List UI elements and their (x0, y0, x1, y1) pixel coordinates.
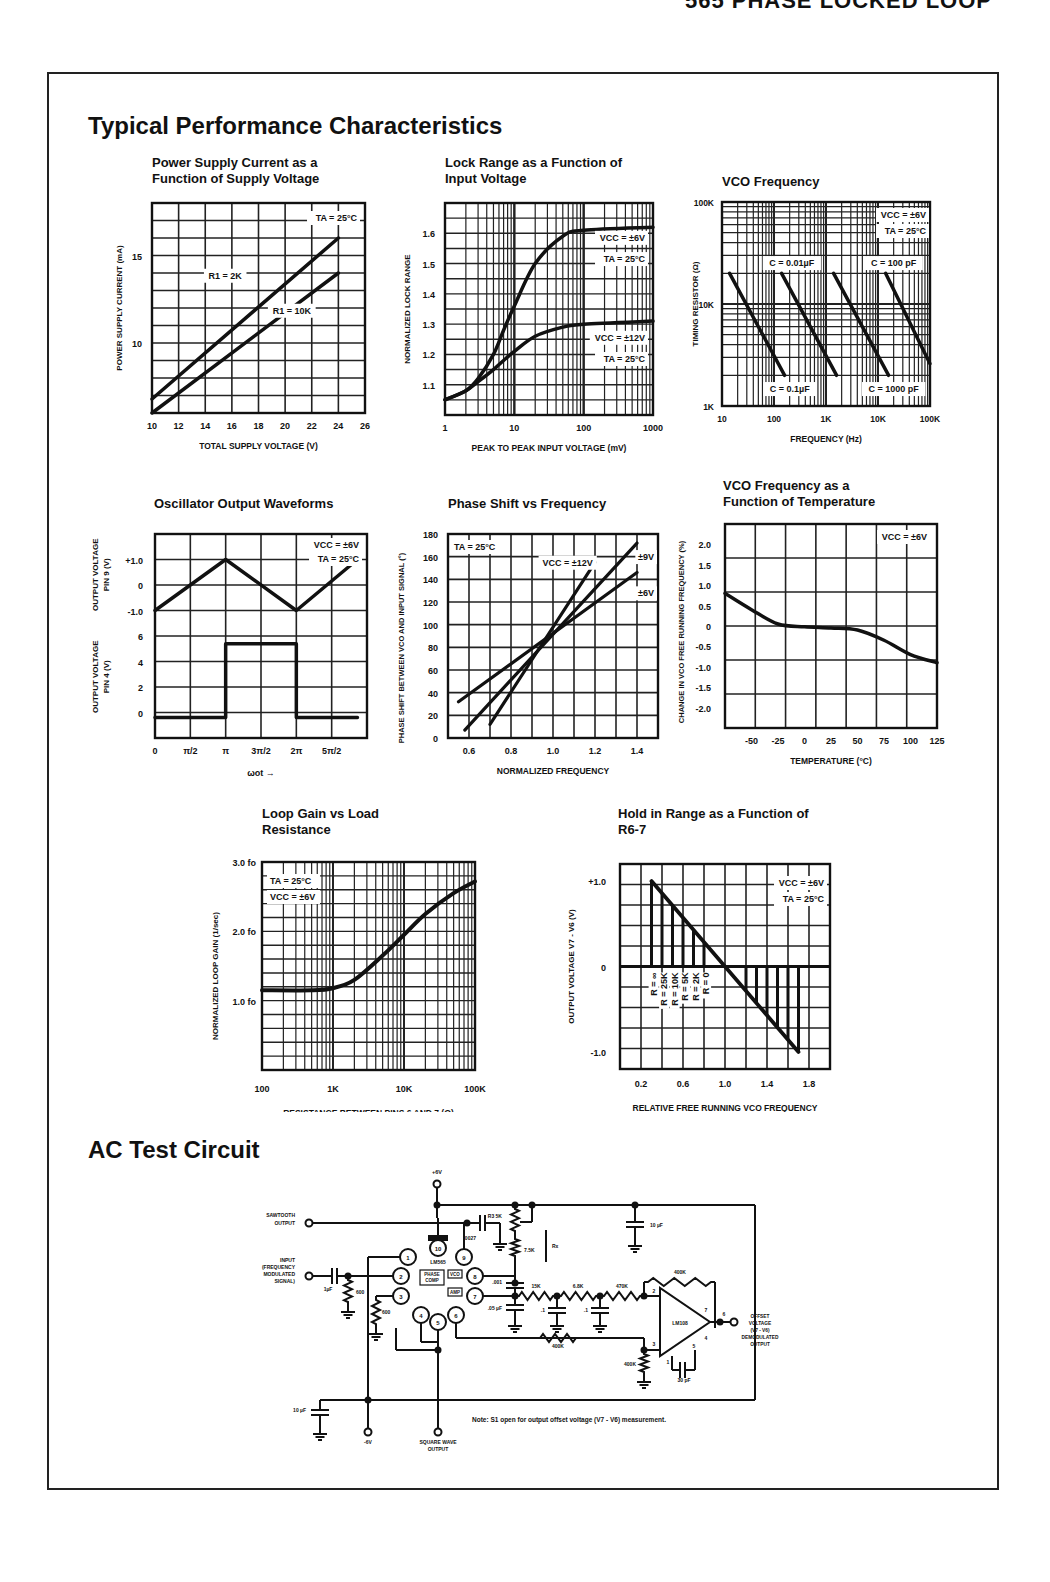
svg-text:+1.0: +1.0 (125, 556, 143, 566)
svg-text:0: 0 (138, 709, 143, 719)
svg-text:C = 1000 pF: C = 1000 pF (869, 384, 920, 394)
svg-text:6: 6 (138, 632, 143, 642)
svg-text:125: 125 (929, 736, 944, 746)
svg-text:10K: 10K (698, 300, 714, 310)
svg-text:75: 75 (879, 736, 889, 746)
svg-text:RESISTANCE BETWEEN PINS 6 AND: RESISTANCE BETWEEN PINS 6 AND 7 (Ω) (283, 1108, 454, 1112)
svg-text:10 µF: 10 µF (650, 1222, 663, 1228)
svg-text:7.5K: 7.5K (524, 1247, 535, 1253)
svg-text:(V7 - V6): (V7 - V6) (750, 1328, 770, 1333)
svg-text:NORMALIZED LOCK RANGE: NORMALIZED LOCK RANGE (403, 254, 412, 364)
svg-text:100: 100 (254, 1084, 269, 1094)
svg-text:2: 2 (653, 1288, 656, 1294)
svg-text:470K: 470K (616, 1283, 628, 1289)
svg-text:10K: 10K (870, 414, 886, 424)
svg-text:24: 24 (333, 421, 343, 431)
svg-text:15: 15 (132, 252, 142, 262)
svg-text:DEMODULATED: DEMODULATED (742, 1335, 779, 1340)
chart-title: VCO Frequency (722, 174, 820, 190)
svg-text:10 µF: 10 µF (293, 1407, 306, 1413)
chart-hold-in-range: Hold in Range as a Function of R6-7 0.20… (550, 802, 850, 1112)
svg-text:π: π (222, 746, 229, 756)
svg-text:TOTAL SUPPLY VOLTAGE (V): TOTAL SUPPLY VOLTAGE (V) (199, 441, 318, 451)
svg-text:1.0 fo: 1.0 fo (232, 997, 256, 1007)
svg-text:TA = 25°C: TA = 25°C (604, 354, 646, 364)
svg-text:14: 14 (200, 421, 210, 431)
svg-text:25: 25 (826, 736, 836, 746)
svg-text:6: 6 (723, 1311, 726, 1317)
svg-text:0.8: 0.8 (505, 746, 518, 756)
svg-text:TA = 25°C: TA = 25°C (270, 876, 312, 886)
chart-title: Oscillator Output Waveforms (154, 496, 333, 512)
svg-text:7: 7 (705, 1307, 708, 1313)
svg-text:1K: 1K (327, 1084, 339, 1094)
section-title-ac-test-circuit: AC Test Circuit (88, 1136, 260, 1164)
svg-text:R = 5K: R = 5K (680, 972, 690, 1001)
svg-text:10: 10 (717, 414, 727, 424)
svg-text:1.6: 1.6 (422, 229, 435, 239)
svg-text:20: 20 (280, 421, 290, 431)
svg-text:C = 0.1µF: C = 0.1µF (770, 384, 810, 394)
svg-text:18: 18 (253, 421, 263, 431)
svg-text:1: 1 (442, 423, 447, 433)
svg-text:VCC = ±12V: VCC = ±12V (595, 333, 645, 343)
svg-text:0: 0 (433, 734, 438, 744)
svg-text:1.3: 1.3 (422, 320, 435, 330)
svg-text:2.0: 2.0 (698, 540, 711, 550)
svg-text:+6V: +6V (432, 1169, 442, 1175)
svg-text:TA = 25°C: TA = 25°C (316, 213, 358, 223)
svg-text:60: 60 (428, 666, 438, 676)
svg-text:6.8K: 6.8K (573, 1283, 584, 1289)
chart-title: Lock Range as a Function of Input Voltag… (445, 155, 635, 187)
svg-text:160: 160 (423, 553, 438, 563)
svg-text:TA = 25°C: TA = 25°C (783, 894, 825, 904)
section-title-performance: Typical Performance Characteristics (88, 112, 502, 140)
svg-text:0: 0 (152, 746, 157, 756)
svg-text:3π/2: 3π/2 (251, 746, 270, 756)
svg-text:100: 100 (423, 621, 438, 631)
svg-text:R3 5K: R3 5K (488, 1213, 503, 1219)
svg-text:140: 140 (423, 575, 438, 585)
chart-title: Phase Shift vs Frequency (448, 496, 606, 512)
svg-text:100: 100 (576, 423, 591, 433)
chart-title: VCO Frequency as a Function of Temperatu… (723, 478, 903, 510)
svg-text:0.6: 0.6 (463, 746, 476, 756)
svg-text:±6V: ±6V (638, 588, 654, 598)
svg-text:C = 100 pF: C = 100 pF (871, 258, 917, 268)
svg-text:C = 0.01µF: C = 0.01µF (769, 258, 814, 268)
svg-text:10K: 10K (396, 1084, 413, 1094)
svg-text:1K: 1K (821, 414, 833, 424)
svg-text:-50: -50 (745, 736, 758, 746)
svg-text:OFFSET: OFFSET (751, 1314, 770, 1319)
ac-test-circuit-diagram: +6V10 µFR3 5K7.5KRxSAWTOOTHOUTPUT.002712… (240, 1160, 800, 1470)
svg-text:-1.0: -1.0 (590, 1048, 606, 1058)
chart-vco-temperature: VCO Frequency as a Function of Temperatu… (670, 472, 960, 782)
svg-text:12: 12 (174, 421, 184, 431)
svg-text:30 pF: 30 pF (677, 1377, 690, 1383)
svg-text:0.5: 0.5 (698, 602, 711, 612)
svg-text:1: 1 (667, 1359, 670, 1365)
svg-text:2: 2 (138, 683, 143, 693)
svg-text:VCC = ±12V: VCC = ±12V (543, 558, 593, 568)
svg-text:Rx: Rx (552, 1243, 559, 1249)
svg-text:0.6: 0.6 (677, 1079, 690, 1089)
svg-text:-0.5: -0.5 (695, 642, 711, 652)
svg-text:(FREQUENCY: (FREQUENCY (262, 1264, 296, 1270)
svg-text:R1 = 10K: R1 = 10K (273, 306, 312, 316)
svg-text:TA = 25°C: TA = 25°C (885, 226, 927, 236)
svg-text:10: 10 (132, 339, 142, 349)
svg-text:AMP: AMP (450, 1290, 460, 1295)
svg-text:TEMPERATURE (°C): TEMPERATURE (°C) (790, 756, 872, 766)
svg-text:π/2: π/2 (183, 746, 197, 756)
svg-text:600: 600 (356, 1289, 365, 1295)
svg-text:0: 0 (138, 581, 143, 591)
svg-text:1.2: 1.2 (589, 746, 602, 756)
svg-text:1.1: 1.1 (422, 381, 435, 391)
svg-text:0.2: 0.2 (635, 1079, 648, 1089)
chart-title: Loop Gain vs Load Resistance (262, 806, 412, 838)
svg-text:50: 50 (852, 736, 862, 746)
svg-text:TA = 25°C: TA = 25°C (318, 554, 360, 564)
svg-text:POWER SUPPLY CURRENT (mA): POWER SUPPLY CURRENT (mA) (115, 245, 124, 371)
svg-text:+1.0: +1.0 (588, 877, 606, 887)
svg-text:VCC = ±6V: VCC = ±6V (779, 878, 824, 888)
